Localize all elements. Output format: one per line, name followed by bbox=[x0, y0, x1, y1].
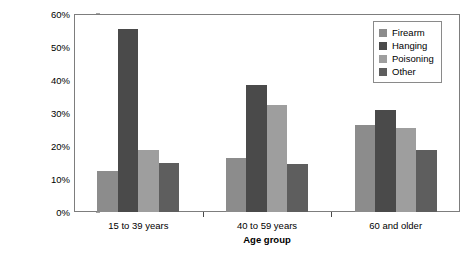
x-axis-tick-label: 15 to 39 years bbox=[108, 220, 168, 231]
bar-chart: Percentage of total suicides 0%10%20%30%… bbox=[0, 0, 468, 269]
bar-other-3 bbox=[416, 150, 437, 212]
legend-label: Hanging bbox=[392, 39, 427, 52]
legend-swatch-icon bbox=[379, 42, 387, 50]
legend-swatch-icon bbox=[379, 55, 387, 63]
bar-other-1 bbox=[159, 163, 180, 213]
legend-item-hanging: Hanging bbox=[379, 39, 434, 52]
y-axis-tick-label: 50% bbox=[26, 42, 70, 53]
y-axis-tick-label: 60% bbox=[26, 9, 70, 20]
legend-item-firearm: Firearm bbox=[379, 26, 434, 39]
legend-label: Firearm bbox=[392, 26, 425, 39]
bar-poisoning-2 bbox=[267, 105, 288, 212]
bar-firearm-1 bbox=[97, 171, 118, 212]
y-axis-tick-label: 40% bbox=[26, 75, 70, 86]
x-axis-tick-label: 60 and older bbox=[369, 220, 422, 231]
legend-item-poisoning: Poisoning bbox=[379, 52, 434, 65]
chart-legend: FirearmHangingPoisoningOther bbox=[373, 21, 442, 83]
x-axis-tick-mark bbox=[203, 212, 204, 217]
y-axis-tick-label: 30% bbox=[26, 108, 70, 119]
bar-poisoning-3 bbox=[396, 128, 417, 212]
y-axis-tick-label: 20% bbox=[26, 141, 70, 152]
bar-hanging-3 bbox=[375, 110, 396, 212]
bar-group bbox=[74, 14, 203, 212]
y-axis-tick-labels: 0%10%20%30%40%50%60% bbox=[26, 14, 70, 212]
legend-label: Other bbox=[392, 65, 416, 78]
y-axis-tick-label: 10% bbox=[26, 174, 70, 185]
legend-label: Poisoning bbox=[392, 52, 434, 65]
bar-hanging-1 bbox=[118, 29, 139, 212]
legend-item-other: Other bbox=[379, 65, 434, 78]
legend-swatch-icon bbox=[379, 29, 387, 37]
y-axis-tick-label: 0% bbox=[26, 207, 70, 218]
bar-firearm-3 bbox=[355, 125, 376, 212]
x-axis-tick-mark bbox=[331, 212, 332, 217]
bar-other-2 bbox=[287, 164, 308, 212]
x-axis-tick-label: 40 to 59 years bbox=[237, 220, 297, 231]
bar-firearm-2 bbox=[226, 158, 247, 212]
bar-poisoning-1 bbox=[138, 150, 159, 212]
bar-group bbox=[203, 14, 332, 212]
legend-swatch-icon bbox=[379, 68, 387, 76]
bar-hanging-2 bbox=[246, 85, 267, 212]
x-axis-title: Age group bbox=[74, 234, 460, 245]
